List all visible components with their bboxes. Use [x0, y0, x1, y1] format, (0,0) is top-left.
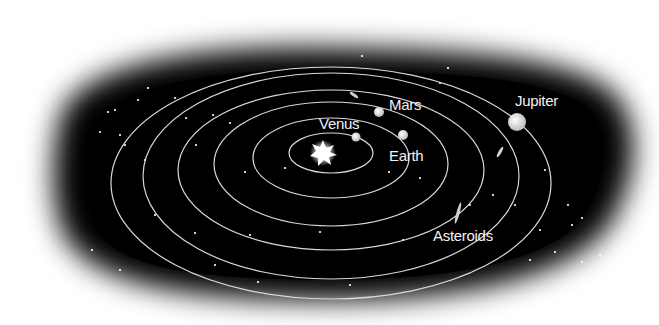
mars-icon — [374, 107, 384, 117]
star-icon — [174, 97, 176, 99]
star-icon — [319, 231, 321, 233]
star-icon — [419, 177, 421, 179]
star-icon — [581, 217, 583, 219]
star-icon — [137, 99, 139, 101]
star-icon — [195, 144, 197, 146]
venus-icon — [352, 133, 361, 142]
solar-system-diagram: Venus Mars Earth Jupiter Asteroids — [0, 0, 659, 325]
star-icon — [544, 169, 546, 171]
earth-icon — [398, 130, 408, 140]
star-icon — [599, 254, 601, 256]
star-icon — [99, 131, 101, 133]
star-icon — [114, 109, 116, 111]
label-mars: Mars — [389, 96, 421, 113]
star-icon — [388, 171, 390, 173]
label-earth: Earth — [389, 147, 423, 164]
label-jupiter: Jupiter — [515, 92, 558, 109]
star-icon — [107, 111, 109, 113]
star-icon — [349, 284, 351, 286]
star-icon — [581, 261, 583, 263]
star-icon — [147, 87, 149, 89]
star-icon — [244, 171, 246, 173]
star-icon — [571, 224, 573, 226]
star-icon — [229, 122, 231, 124]
star-icon — [212, 114, 214, 116]
star-icon — [567, 204, 569, 206]
star-icon — [91, 249, 93, 251]
star-icon — [194, 232, 196, 234]
star-icon — [214, 264, 216, 266]
jupiter-icon — [508, 113, 526, 131]
label-asteroids: Asteroids — [433, 227, 493, 244]
star-icon — [447, 67, 449, 69]
star-icon — [492, 194, 494, 196]
star-icon — [361, 55, 363, 57]
star-icon — [554, 251, 556, 253]
label-venus: Venus — [319, 115, 359, 132]
star-icon — [119, 269, 121, 271]
star-icon — [529, 259, 531, 261]
star-icon — [257, 281, 259, 283]
star-icon — [119, 134, 121, 136]
star-icon — [185, 117, 187, 119]
star-icon — [539, 229, 541, 231]
star-icon — [514, 204, 516, 206]
star-icon — [249, 234, 251, 236]
star-icon — [284, 167, 286, 169]
